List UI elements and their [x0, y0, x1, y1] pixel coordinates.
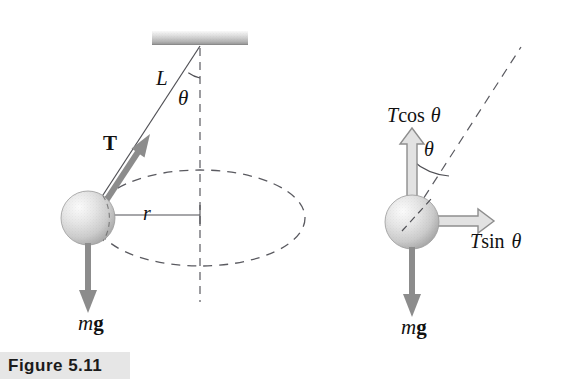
weight-label-right-gravity: g: [416, 315, 427, 339]
t-sin-theta-label: Tsinθ: [470, 231, 521, 251]
tension-label: T: [103, 133, 117, 154]
angle-label-right: θ: [424, 139, 434, 159]
t-cos-theta-label-fn: cos: [398, 104, 425, 126]
weight-vector-left: [79, 243, 97, 313]
angle-label-left: θ: [178, 88, 188, 109]
weight-vector-right: [403, 247, 421, 317]
pendulum-bob-left: [61, 191, 115, 245]
weight-label-left-gravity: g: [93, 311, 104, 335]
figure-caption-band: Figure 5.11: [0, 352, 130, 379]
figure-container: L θ T r mg Tcosθ θ Tsinθ mg Figure 5.11: [0, 0, 561, 386]
t-cos-theta-label-theta: θ: [425, 104, 441, 126]
figure-caption-text: Figure 5.11: [0, 356, 102, 376]
t-sin-theta-label-fn: sin: [481, 230, 504, 252]
radius-label: r: [143, 203, 151, 223]
pendulum-bob-right: [385, 195, 439, 249]
weight-label-left-mass: m: [78, 311, 93, 335]
t-sin-theta-label-theta: θ: [504, 230, 521, 252]
weight-label-right: mg: [401, 317, 427, 338]
t-cos-theta-label-t: T: [387, 104, 398, 126]
t-sin-theta-label-t: T: [470, 230, 481, 252]
ceiling-support: [152, 31, 248, 45]
weight-label-left: mg: [78, 313, 104, 334]
weight-label-right-mass: m: [401, 315, 416, 339]
t-cos-theta-label: Tcosθ: [387, 105, 441, 125]
string-length-label: L: [156, 68, 168, 89]
angle-arc-left: [188, 73, 200, 78]
